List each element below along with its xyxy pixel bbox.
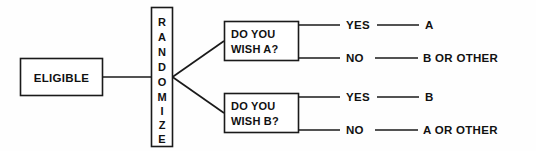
outcome-wish-a-yes: A <box>425 19 434 31</box>
flowchart-canvas: ELIGIBLE R A N D O M I Z E DO YOU WISH A… <box>0 0 536 151</box>
randomize-letter-6: I <box>160 105 163 117</box>
randomize-letter-4: O <box>158 76 167 88</box>
flowchart-diagram: ELIGIBLE R A N D O M I Z E DO YOU WISH A… <box>0 0 536 151</box>
decision-wish-a-line2: WISH A? <box>231 43 279 55</box>
randomize-letter-3: D <box>158 61 166 73</box>
branch-label-wish-a-yes: YES <box>346 19 370 31</box>
branch-label-wish-b-no: NO <box>346 124 364 136</box>
decision-wish-b-line1: DO YOU <box>231 100 275 112</box>
branch-label-wish-b-yes: YES <box>346 91 370 103</box>
randomize-letter-0: R <box>158 16 166 28</box>
branch-label-wish-a-no: NO <box>346 52 364 64</box>
decision-wish-a-line1: DO YOU <box>231 28 275 40</box>
eligible-node-label: ELIGIBLE <box>34 72 89 84</box>
connector-randomize-to-wish-b <box>173 77 225 113</box>
randomize-letter-8: E <box>158 133 165 145</box>
randomize-letter-2: N <box>158 46 166 58</box>
decision-wish-b-line2: WISH B? <box>231 115 279 127</box>
randomize-letter-5: M <box>157 91 166 103</box>
outcome-wish-b-yes: B <box>425 91 434 103</box>
outcome-wish-b-no: A OR OTHER <box>423 124 498 136</box>
randomize-letter-7: Z <box>159 119 166 131</box>
randomize-letter-1: A <box>158 31 166 43</box>
connector-randomize-to-wish-a <box>173 41 225 77</box>
outcome-wish-a-no: B OR OTHER <box>423 52 499 64</box>
